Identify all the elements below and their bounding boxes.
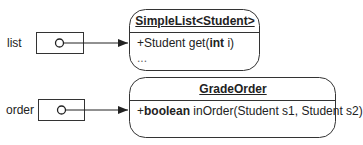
gradeorder-method-inorder: +boolean inOrder(Student s1, Student s2)	[137, 104, 363, 118]
method-suffix: i)	[224, 36, 234, 50]
method-prefix: +	[137, 104, 144, 118]
method-prefix: +Student get(	[137, 36, 209, 50]
gradeorder-class-name: GradeOrder	[130, 82, 336, 96]
order-pointer-dot	[58, 106, 66, 114]
method-keyword: boolean	[144, 104, 190, 118]
simplelist-ellipsis: ...	[137, 51, 147, 65]
method-suffix: inOrder(Student s1, Student s2)	[190, 104, 363, 118]
method-keyword: int	[209, 36, 224, 50]
simplelist-class-name: SimpleList<Student>	[130, 14, 260, 28]
list-pointer-dot	[56, 39, 64, 47]
simplelist-method-get: +Student get(int i)	[137, 36, 234, 50]
order-variable-label: order	[6, 103, 34, 117]
list-variable-label: list	[7, 36, 22, 50]
